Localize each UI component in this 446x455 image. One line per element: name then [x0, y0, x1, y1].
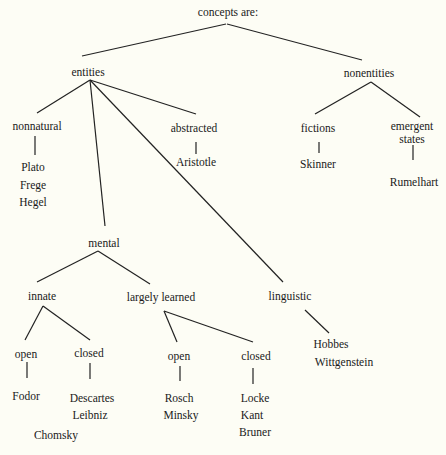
- node-skinner: Skinner: [300, 158, 336, 171]
- node-emergent-states-line1: emergent: [391, 120, 434, 133]
- edge-nonentities-emergent_states: [371, 82, 420, 117]
- node-mental: mental: [88, 237, 119, 250]
- node-rosch: Rosch: [165, 392, 194, 405]
- node-hegel: Hegel: [19, 196, 46, 209]
- edge-entities-nonnatural: [37, 80, 90, 113]
- node-innate-open: open: [15, 348, 37, 361]
- node-nonnatural: nonnatural: [12, 120, 61, 133]
- node-abstracted: abstracted: [171, 122, 218, 135]
- node-innate-closed: closed: [74, 347, 103, 360]
- node-plato: Plato: [21, 161, 45, 174]
- edge-entities-linguistic: [90, 80, 283, 282]
- node-chomsky: Chomsky: [34, 429, 78, 442]
- edge-entities-mental: [90, 80, 105, 226]
- node-linguistic: linguistic: [269, 290, 312, 303]
- edge-linguistic-hobbes: [305, 310, 329, 333]
- node-fictions: fictions: [301, 122, 336, 135]
- edge-largely_learned-learned_closed: [164, 311, 253, 342]
- node-locke: Locke: [241, 392, 270, 405]
- edge-innate-innate_closed: [43, 306, 90, 340]
- edge-nonentities-fictions: [315, 82, 371, 114]
- node-innate: innate: [28, 290, 56, 303]
- node-aristotle: Aristotle: [176, 156, 216, 169]
- node-descartes: Descartes: [70, 392, 115, 405]
- node-kant: Kant: [241, 409, 263, 422]
- node-learned-closed: closed: [241, 350, 270, 363]
- node-root: concepts are:: [198, 6, 258, 19]
- node-learned-open: open: [168, 350, 190, 363]
- node-hobbes: Hobbes: [313, 338, 348, 351]
- edge-innate-innate_open: [25, 306, 43, 340]
- node-emergent-states: emergent states: [391, 120, 434, 146]
- node-largely-learned: largely learned: [127, 291, 195, 304]
- edge-root-nonentities: [227, 24, 362, 60]
- edge-mental-largely_learned: [98, 251, 150, 284]
- edge-mental-innate: [37, 251, 98, 282]
- node-minsky: Minsky: [163, 409, 198, 422]
- node-leibniz: Leibniz: [72, 409, 107, 422]
- node-nonentities: nonentities: [344, 67, 394, 80]
- edge-root-entities: [82, 24, 226, 56]
- node-wittgenstein: Wittgenstein: [315, 356, 373, 369]
- node-fodor: Fodor: [12, 390, 39, 403]
- node-bruner: Bruner: [239, 426, 271, 439]
- node-frege: Frege: [20, 179, 46, 192]
- node-entities: entities: [71, 66, 104, 79]
- edge-largely_learned-learned_open: [164, 311, 177, 342]
- node-rumelhart: Rumelhart: [390, 176, 439, 189]
- node-emergent-states-line2: states: [391, 133, 434, 146]
